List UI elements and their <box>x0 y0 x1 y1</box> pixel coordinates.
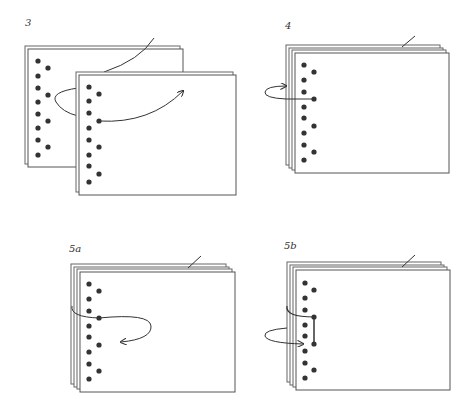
panel-5a <box>71 256 235 392</box>
binding-diagram: 3 4 5a 5b <box>0 0 472 405</box>
diagram-canvas <box>0 0 472 405</box>
sheet-stack <box>286 45 449 173</box>
panel-3 <box>25 38 236 195</box>
sheet-stack <box>71 264 235 392</box>
panel-5b <box>265 255 450 390</box>
sheet-stack <box>287 262 450 390</box>
panel-4 <box>265 36 449 173</box>
front-sheet-stack <box>76 72 236 195</box>
